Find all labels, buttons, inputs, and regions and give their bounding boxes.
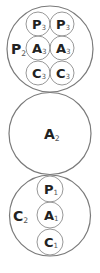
- group-label-middle: A2: [44, 126, 60, 143]
- inner-label: P3: [32, 17, 46, 33]
- inner-label-main: A: [56, 41, 66, 56]
- inner-label-main: C: [44, 235, 54, 250]
- inner-label-subscript: 1: [54, 241, 59, 250]
- group-label-middle-subscript: 2: [55, 134, 60, 143]
- inner-label: A1: [44, 208, 59, 224]
- inner-node: A3: [26, 36, 50, 60]
- group-label-bottom-main: C: [13, 208, 23, 224]
- inner-label: P3: [56, 17, 70, 33]
- circle-group-bottom: P1A1C1C2: [10, 175, 91, 256]
- nested-circle-diagram: P3P3A3A3C3C3P2A2P1A1C1C2: [0, 0, 100, 273]
- circle-group-top: P3P3A3A3C3C3P2: [7, 6, 93, 92]
- inner-node: C1: [37, 229, 63, 255]
- inner-label: P1: [44, 182, 58, 198]
- inner-label-subscript: 1: [54, 214, 59, 223]
- inner-label-subscript: 3: [42, 72, 47, 81]
- inner-label-subscript: 3: [66, 72, 71, 81]
- inner-node: A3: [50, 36, 74, 60]
- group-label-top-main: P: [11, 41, 21, 57]
- inner-label-subscript: 3: [66, 23, 71, 32]
- inner-node: C3: [50, 61, 74, 85]
- inner-label-main: A: [32, 41, 42, 56]
- inner-label-subscript: 3: [42, 23, 47, 32]
- inner-label-main: P: [56, 17, 66, 32]
- inner-node: P1: [37, 176, 63, 202]
- inner-label-main: C: [32, 66, 42, 81]
- group-label-middle-main: A: [44, 126, 55, 142]
- inner-node: A1: [37, 202, 63, 228]
- inner-node: P3: [26, 12, 50, 36]
- inner-label: C3: [56, 66, 70, 82]
- group-label-top: P2: [11, 41, 26, 58]
- inner-label-main: P: [32, 17, 42, 32]
- inner-label-subscript: 3: [66, 47, 71, 56]
- inner-label: A3: [32, 41, 47, 57]
- inner-label-subscript: 1: [54, 188, 59, 197]
- inner-label-main: C: [56, 66, 66, 81]
- inner-label-subscript: 3: [42, 47, 47, 56]
- inner-label: C1: [44, 235, 58, 251]
- inner-label: C3: [32, 66, 46, 82]
- circle-group-middle: A2: [9, 93, 91, 175]
- group-label-bottom-subscript: 2: [23, 216, 28, 225]
- group-label-top-subscript: 2: [21, 49, 26, 58]
- group-label-bottom: C2: [13, 208, 28, 225]
- inner-label-main: A: [44, 208, 54, 223]
- inner-node: C3: [26, 61, 50, 85]
- inner-node: P3: [50, 12, 74, 36]
- inner-label: A3: [56, 41, 71, 57]
- inner-label-main: P: [44, 182, 54, 197]
